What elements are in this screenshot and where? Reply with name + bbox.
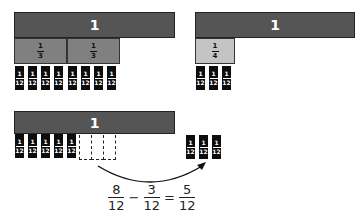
fraction-five-twelfths: 512 [179, 183, 196, 212]
fraction-eight-twelfths: 812 [108, 183, 125, 212]
minus-sign: − [129, 190, 140, 205]
twelfth-tile: 112 [199, 135, 208, 159]
twelfth-tile: 112 [186, 135, 195, 159]
equals-sign: = [164, 190, 175, 205]
subtraction-equation: 812 − 312 = 512 [108, 183, 195, 212]
twelfth-tile: 112 [212, 135, 221, 159]
fraction-three-twelfths: 312 [143, 183, 160, 212]
